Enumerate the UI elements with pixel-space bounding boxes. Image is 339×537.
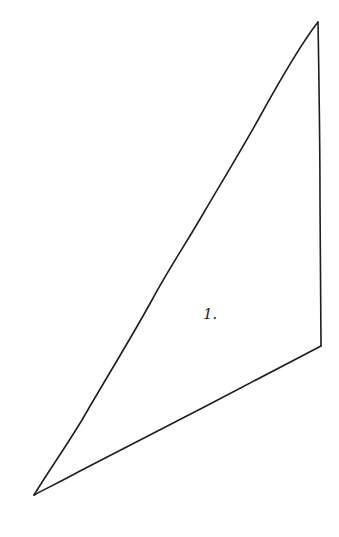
- triangle-label: 1.: [203, 307, 217, 322]
- triangle-edge-base: [34, 346, 321, 495]
- triangle-figure: [0, 0, 339, 537]
- triangle-edge-hypotenuse: [34, 22, 318, 495]
- triangle-edge-vertical: [318, 22, 321, 346]
